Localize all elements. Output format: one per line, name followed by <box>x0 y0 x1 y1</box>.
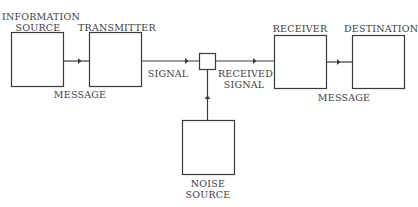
arrowhead-icon <box>205 96 211 100</box>
receiver-box <box>275 36 327 89</box>
noise-source-label: NOISE SOURCE <box>172 178 244 200</box>
arrowhead-icon <box>78 58 82 64</box>
edge-label-received-signal: RECEIVED SIGNAL <box>218 68 270 90</box>
label-line: NOISE <box>172 178 244 189</box>
transmitter-label: TRANSMITTER <box>78 22 152 33</box>
information-source-label: INFORMATION SOURCE <box>2 11 74 33</box>
arrowhead-icon <box>337 59 341 65</box>
label-line: TRANSMITTER <box>78 22 152 33</box>
destination-label: DESTINATION <box>344 23 416 34</box>
noise-source-box <box>183 121 235 175</box>
label-line: DESTINATION <box>344 23 416 34</box>
edge-label-signal: SIGNAL <box>146 68 190 79</box>
edge-label-message-1: MESSAGE <box>48 89 112 100</box>
mixer-box <box>200 54 216 70</box>
transmitter-box <box>90 33 142 87</box>
label-line: SIGNAL <box>218 79 270 90</box>
edge-label-message-2: MESSAGE <box>312 92 376 103</box>
label-line: INFORMATION <box>2 11 74 22</box>
destination-box <box>353 36 405 89</box>
label-line: SOURCE <box>2 22 74 33</box>
information-source-box <box>12 33 64 87</box>
label-line: RECEIVER <box>264 23 336 34</box>
arrowhead-icon <box>253 58 257 64</box>
label-line: RECEIVED <box>218 68 270 79</box>
receiver-label: RECEIVER <box>264 23 336 34</box>
arrowhead-icon <box>185 58 189 64</box>
label-line: SOURCE <box>172 189 244 200</box>
